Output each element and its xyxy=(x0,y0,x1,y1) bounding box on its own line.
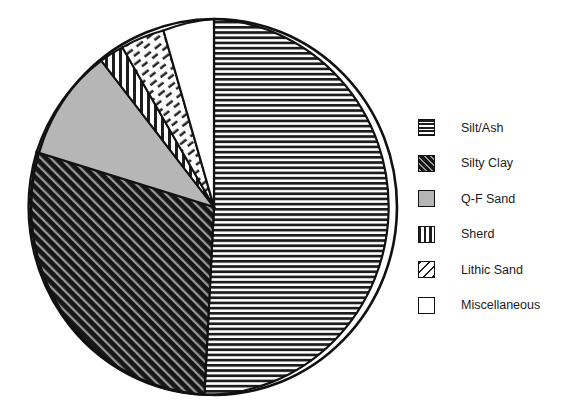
legend-item-qf-sand[interactable]: Q-F Sand xyxy=(418,181,581,217)
legend-swatch-diagonal-dashes-icon xyxy=(418,261,435,278)
legend-label: Q-F Sand xyxy=(461,193,515,206)
pie-slice-silt-ash[interactable] xyxy=(204,19,388,395)
legend-swatch-vertical-lines-icon xyxy=(418,226,435,243)
legend-item-miscellaneous[interactable]: Miscellaneous xyxy=(418,288,581,324)
legend-item-silt-ash[interactable]: Silt/Ash xyxy=(418,110,581,146)
legend-swatch-horizontal-lines-icon xyxy=(418,119,435,136)
pie-chart-area xyxy=(0,0,415,417)
legend-label: Miscellaneous xyxy=(461,299,540,312)
pie-chart-svg xyxy=(0,0,415,417)
legend-label: Sherd xyxy=(461,228,494,241)
legend-item-silty-clay[interactable]: Silty Clay xyxy=(418,146,581,182)
legend-swatch-solid-white-icon xyxy=(418,297,435,314)
legend-label: Lithic Sand xyxy=(461,264,523,277)
legend-label: Silty Clay xyxy=(461,157,513,170)
legend-swatch-diagonal-hatch-icon xyxy=(418,155,435,172)
legend-label: Silt/Ash xyxy=(461,122,503,135)
pie-chart-figure: Silt/Ash Silty Clay Q-F Sand Sherd Lithi… xyxy=(0,0,581,417)
legend-swatch-solid-gray-icon xyxy=(418,190,435,207)
legend-item-lithic-sand[interactable]: Lithic Sand xyxy=(418,252,581,288)
legend-item-sherd[interactable]: Sherd xyxy=(418,217,581,253)
legend: Silt/Ash Silty Clay Q-F Sand Sherd Lithi… xyxy=(418,110,581,323)
